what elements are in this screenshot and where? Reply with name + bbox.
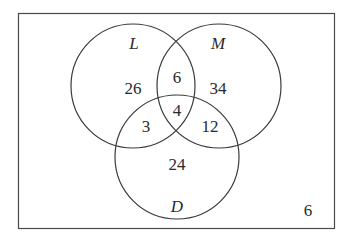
region-l-only: 26 bbox=[125, 79, 142, 98]
region-l-d: 3 bbox=[142, 117, 151, 136]
region-outside: 6 bbox=[304, 201, 313, 220]
set-label-l: L bbox=[128, 34, 138, 53]
set-label-d: D bbox=[170, 197, 184, 216]
region-d-only: 24 bbox=[169, 155, 187, 174]
venn-diagram: L M D 26 34 24 6 3 12 4 6 bbox=[0, 0, 353, 245]
region-l-m-d: 4 bbox=[173, 101, 182, 120]
set-label-m: M bbox=[210, 34, 226, 53]
region-m-only: 34 bbox=[210, 79, 228, 98]
region-l-m: 6 bbox=[173, 68, 182, 87]
region-m-d: 12 bbox=[202, 117, 219, 136]
